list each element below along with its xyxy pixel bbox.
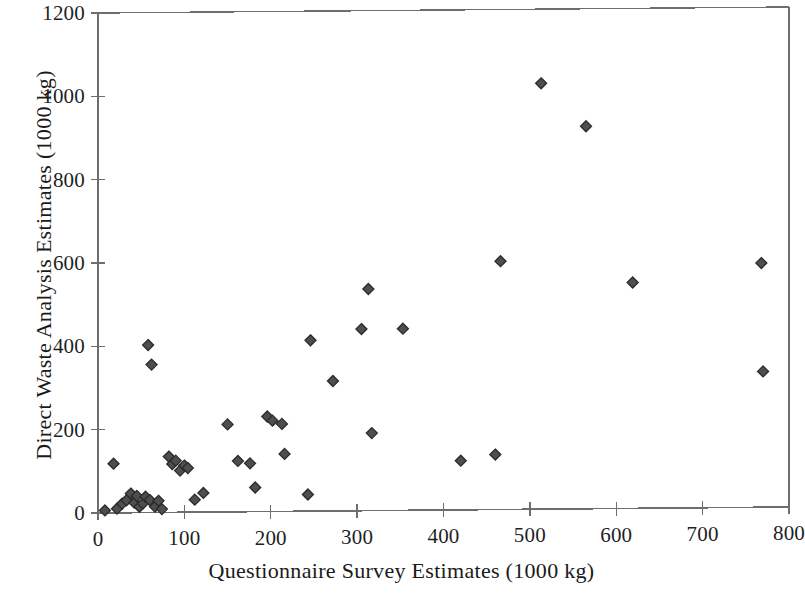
y-tick-label: 200: [53, 417, 85, 442]
plot-top-border: [98, 7, 789, 13]
data-point-marker: [627, 277, 638, 288]
y-axis-title-container: Direct Waste Analysis Estimates (1000 kg…: [31, 0, 57, 545]
data-point-marker: [758, 366, 769, 377]
data-point-marker: [245, 458, 256, 469]
data-point-marker: [302, 489, 313, 500]
data-point-marker: [108, 458, 119, 469]
y-tick-label: 600: [53, 251, 85, 276]
data-point-marker: [143, 340, 154, 351]
data-point-marker: [250, 482, 261, 493]
data-point-marker: [99, 505, 110, 516]
data-point-marker: [279, 448, 290, 459]
data-point-marker: [756, 258, 767, 269]
data-point-marker: [536, 78, 547, 89]
x-tick-label: 300: [341, 525, 373, 550]
x-tick-label: 400: [427, 524, 459, 549]
x-tick-label: 500: [514, 523, 546, 548]
data-point-marker: [222, 419, 233, 430]
data-point-marker: [490, 449, 501, 460]
x-axis-title: Questionnaire Survey Estimates (1000 kg): [0, 558, 803, 584]
data-point-marker: [198, 487, 209, 498]
y-tick-label: 400: [53, 334, 85, 359]
y-tick-label: 0: [74, 501, 85, 526]
data-point-marker: [356, 324, 367, 335]
y-axis-title: Direct Waste Analysis Estimates (1000 kg…: [31, 70, 56, 460]
axis-frame: [98, 7, 789, 513]
data-point-marker: [495, 256, 506, 267]
x-tick-label: 800: [773, 521, 805, 546]
data-point-marker: [327, 375, 338, 386]
x-tick-label: 0: [93, 527, 104, 552]
y-tick-label: 800: [53, 167, 85, 192]
x-tick-label: 700: [687, 522, 719, 547]
data-point-marker: [232, 455, 243, 466]
data-point-marker: [397, 323, 408, 334]
data-point-marker: [189, 494, 200, 505]
data-point-marker: [146, 359, 157, 370]
data-point-marker: [455, 455, 466, 466]
data-point-marker: [366, 428, 377, 439]
data-point-marker: [363, 283, 374, 294]
x-tick-label: 600: [600, 523, 632, 548]
tick-marks: [91, 13, 789, 520]
data-point-marker: [305, 335, 316, 346]
data-point-marker: [581, 121, 592, 132]
x-tick-label: 100: [168, 526, 200, 551]
x-tick-label: 200: [255, 526, 287, 551]
data-point-markers: [99, 78, 768, 516]
